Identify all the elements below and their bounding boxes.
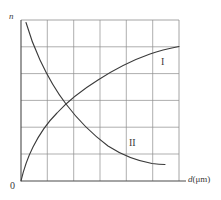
origin-label: 0 (10, 181, 15, 191)
curve-label-i: I (161, 57, 164, 67)
plot-canvas (0, 0, 221, 200)
x-axis-label: d(μm) (188, 175, 210, 184)
graph-figure: n 0 d(μm) I II (0, 0, 221, 200)
x-axis-unit: (μm) (193, 174, 211, 184)
y-axis-label: n (9, 12, 14, 21)
curve-label-ii: II (129, 138, 136, 148)
curve-series-2 (26, 23, 165, 165)
